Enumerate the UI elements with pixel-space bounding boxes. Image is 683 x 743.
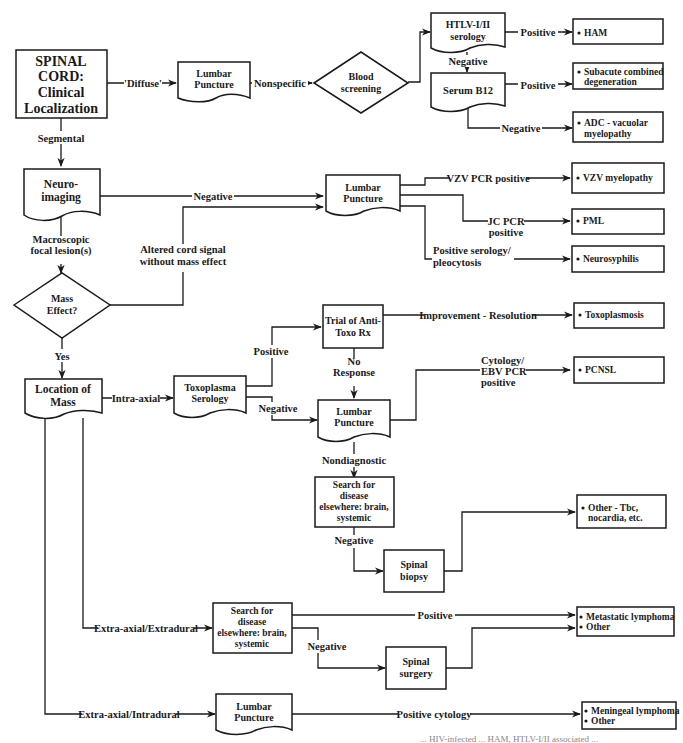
svg-text:Spinal: Spinal bbox=[400, 559, 427, 570]
svg-text:HTLV-I/II: HTLV-I/II bbox=[446, 19, 491, 30]
node-spinal-surgery[interactable]: Spinal surgery bbox=[386, 647, 446, 689]
svg-text:degeneration: degeneration bbox=[584, 77, 637, 87]
outcome-pcnsl[interactable]: PCNSL bbox=[574, 357, 664, 383]
svg-text:Puncture: Puncture bbox=[234, 712, 274, 723]
svg-text:Toxoplasmosis: Toxoplasmosis bbox=[585, 310, 644, 320]
svg-text:Serum B12: Serum B12 bbox=[443, 85, 493, 96]
svg-text:VZV myelopathy: VZV myelopathy bbox=[583, 173, 653, 183]
node-spinal-biopsy[interactable]: Spinal biopsy bbox=[384, 550, 444, 592]
svg-text:Serology: Serology bbox=[191, 393, 228, 404]
outcome-subacute-combined-degeneration[interactable]: Subacute combined degeneration bbox=[573, 63, 664, 89]
outcome-metastatic-lymphoma[interactable]: Metastatic lymphoma Other bbox=[577, 607, 675, 636]
outcome-toxoplasmosis[interactable]: Toxoplasmosis bbox=[574, 303, 664, 328]
label-b12-positive: Positive bbox=[521, 80, 556, 91]
svg-text:PCNSL: PCNSL bbox=[585, 365, 616, 375]
outcome-other-tbc-nocardia[interactable]: Other - Tbc, nocardia, etc. bbox=[577, 495, 666, 528]
outcome-adc-vacuolar-myelopathy[interactable]: ADC - vacuolar myelopathy bbox=[573, 112, 663, 142]
svg-text:nocardia, etc.: nocardia, etc. bbox=[588, 513, 643, 523]
node-htlv-serology[interactable]: HTLV-I/II serology bbox=[431, 13, 505, 53]
bullet-icon bbox=[577, 121, 580, 124]
svg-text:Puncture: Puncture bbox=[194, 79, 234, 90]
node-search-disease-1[interactable]: Search for disease elsewhere: brain, sys… bbox=[315, 477, 394, 527]
bullet-icon bbox=[578, 368, 581, 371]
label-macroscopic-2: focal lesion(s) bbox=[31, 245, 92, 257]
svg-text:Mass: Mass bbox=[50, 396, 76, 408]
svg-text:HAM: HAM bbox=[584, 28, 607, 38]
bullet-icon bbox=[577, 31, 580, 34]
node-serum-b12[interactable]: Serum B12 bbox=[431, 73, 505, 112]
bullet-icon bbox=[577, 70, 580, 73]
label-altered-1: Altered cord signal bbox=[140, 244, 226, 255]
label-nondiagnostic: Nondiagnostic bbox=[322, 455, 387, 466]
svg-text:Neurosyphilis: Neurosyphilis bbox=[583, 254, 639, 264]
svg-text:surgery: surgery bbox=[400, 668, 433, 679]
svg-text:Neuro-: Neuro- bbox=[44, 178, 78, 190]
svg-text:CORD:: CORD: bbox=[38, 69, 84, 84]
outcome-neurosyphilis[interactable]: Neurosyphilis bbox=[572, 246, 664, 272]
label-no-response-2: Response bbox=[333, 367, 375, 378]
svg-text:SPINAL: SPINAL bbox=[35, 54, 86, 69]
edge-intradural bbox=[45, 418, 215, 714]
svg-text:serology: serology bbox=[450, 31, 485, 42]
node-location-of-mass[interactable]: Location of Mass bbox=[25, 379, 102, 418]
node-lumbar-puncture-top[interactable]: Lumbar Puncture bbox=[178, 62, 250, 102]
bullet-icon bbox=[576, 219, 579, 222]
svg-text:Lumbar: Lumbar bbox=[236, 701, 272, 712]
label-segmental: Segmental bbox=[38, 133, 85, 144]
label-jc-pcr-2: positive bbox=[489, 227, 524, 238]
node-blood-screening[interactable]: Blood screening bbox=[314, 52, 408, 113]
node-neuroimaging[interactable]: Neuro- imaging bbox=[24, 169, 100, 220]
label-htlv-negative: Negative bbox=[448, 56, 487, 67]
svg-text:Lumbar: Lumbar bbox=[196, 68, 232, 79]
label-macroscopic-1: Macroscopic bbox=[33, 234, 90, 245]
bullet-icon bbox=[576, 257, 579, 260]
bullet-icon bbox=[579, 615, 582, 618]
node-lumbar-puncture-bottom[interactable]: Lumbar Puncture bbox=[216, 694, 292, 735]
label-search2-positive: Positive bbox=[418, 610, 453, 621]
label-vzv-pcr: VZV PCR positive bbox=[446, 173, 530, 184]
node-toxoplasma-serology[interactable]: Toxoplasma Serology bbox=[174, 376, 246, 418]
svg-text:Search for: Search for bbox=[231, 606, 274, 616]
outcome-meningeal-lymphoma[interactable]: Meningeal lymphoma Other bbox=[582, 702, 680, 729]
bullet-icon bbox=[576, 176, 579, 179]
bullet-icon bbox=[579, 625, 582, 628]
outcome-ham[interactable]: HAM bbox=[573, 19, 663, 44]
node-lumbar-puncture-mid[interactable]: Lumbar Puncture bbox=[326, 175, 400, 216]
svg-text:systemic: systemic bbox=[337, 513, 371, 523]
outcome-pml[interactable]: PML bbox=[572, 209, 664, 234]
svg-text:elsewhere: brain,: elsewhere: brain, bbox=[217, 628, 287, 638]
bullet-icon bbox=[584, 709, 587, 712]
svg-text:disease: disease bbox=[238, 617, 267, 627]
node-trial-anti-toxo[interactable]: Trial of Anti- Toxo Rx bbox=[323, 305, 383, 348]
svg-text:Trial of Anti-: Trial of Anti- bbox=[325, 315, 381, 326]
svg-text:myelopathy: myelopathy bbox=[584, 129, 632, 139]
label-toxo-positive: Positive bbox=[254, 346, 289, 357]
svg-text:Effect?: Effect? bbox=[47, 305, 78, 316]
label-intradural: Extra-axial/Intradural bbox=[78, 709, 180, 720]
svg-text:Blood: Blood bbox=[348, 71, 373, 82]
svg-text:Toxo Rx: Toxo Rx bbox=[335, 327, 370, 338]
outcome-vzv-myelopathy[interactable]: VZV myelopathy bbox=[572, 163, 664, 193]
label-intra-axial: Intra-axial bbox=[112, 393, 160, 404]
label-search2-negative: Negative bbox=[307, 641, 346, 652]
svg-text:Location of: Location of bbox=[35, 383, 91, 395]
svg-text:Meningeal lymphoma: Meningeal lymphoma bbox=[591, 706, 680, 716]
node-mass-effect[interactable]: Mass Effect? bbox=[14, 273, 110, 338]
svg-text:Lumbar: Lumbar bbox=[336, 406, 372, 417]
node-spinal-cord[interactable]: SPINAL CORD: Clinical Localization bbox=[16, 50, 107, 118]
svg-text:imaging: imaging bbox=[41, 191, 81, 204]
svg-text:screening: screening bbox=[341, 83, 381, 94]
edge-search1-negative bbox=[354, 527, 383, 571]
label-improvement: Improvement - Resolution bbox=[419, 310, 537, 321]
svg-text:Mass: Mass bbox=[51, 293, 73, 304]
label-no-response-1: No bbox=[348, 356, 361, 367]
label-nonspecific: Nonspecific bbox=[254, 78, 306, 89]
svg-text:Toxoplasma: Toxoplasma bbox=[184, 382, 235, 393]
node-search-disease-2[interactable]: Search for disease elsewhere: brain, sys… bbox=[213, 603, 292, 653]
edge-surgery-other bbox=[446, 628, 575, 668]
svg-text:systemic: systemic bbox=[235, 639, 269, 649]
label-pos-serology-1: Positive serology/ bbox=[433, 245, 512, 256]
edge-extradural bbox=[83, 418, 212, 628]
node-lumbar-puncture-lower[interactable]: Lumbar Puncture bbox=[318, 400, 390, 442]
flowchart: 'Diffuse' Nonspecific Positive Negative … bbox=[0, 0, 683, 743]
